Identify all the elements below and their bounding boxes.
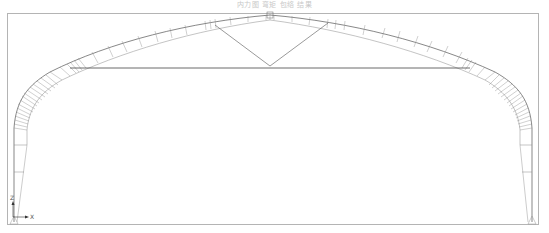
axis-indicator: X Z (10, 194, 34, 220)
right-column (520, 145, 532, 222)
viewport-frame (8, 14, 539, 225)
moment-hatching-left (14, 14, 274, 130)
moment-hatching-right (292, 16, 532, 130)
z-axis-label: Z (10, 194, 14, 201)
left-v-brace (215, 25, 270, 66)
structure-diagram: X Z (0, 0, 549, 233)
arch-rafter (14, 15, 532, 145)
right-v-brace (270, 23, 328, 66)
x-axis-label: X (30, 213, 34, 220)
left-column (14, 145, 27, 222)
